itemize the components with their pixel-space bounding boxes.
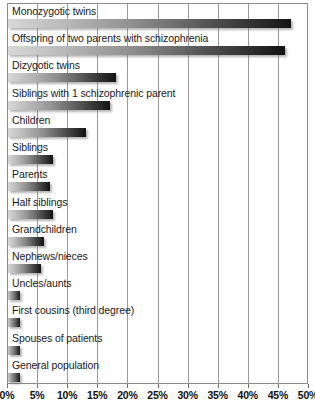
bar-container — [8, 46, 285, 56]
bar — [8, 373, 20, 382]
x-axis-tick-label: 5% — [30, 389, 45, 402]
bar-label: Monozygotic twins — [12, 4, 96, 18]
bar — [8, 346, 20, 355]
bar-container — [8, 346, 20, 356]
bar-container — [8, 73, 116, 83]
bar-container — [8, 182, 50, 192]
bar-label: General population — [12, 358, 99, 372]
bar-container — [8, 291, 20, 301]
chart-row: Dizygotic twins — [8, 58, 307, 85]
x-axis-tick-label: 45% — [268, 389, 288, 402]
bar-label: Children — [12, 113, 50, 127]
bar — [8, 182, 50, 191]
x-axis-tick — [7, 384, 8, 388]
bar-chart: Monozygotic twinsOffspring of two parent… — [0, 0, 315, 420]
bar — [8, 46, 285, 55]
bar-container — [8, 318, 20, 328]
x-axis-tick — [158, 384, 159, 388]
x-axis-tick — [97, 384, 98, 388]
bar-label: Offspring of two parents with schizophre… — [12, 31, 208, 45]
x-axis-tick-label: 30% — [177, 389, 197, 402]
bar-label: Siblings — [12, 140, 48, 154]
x-axis-tick — [248, 384, 249, 388]
bar — [8, 101, 110, 110]
x-axis-tick-label: 50% — [298, 389, 315, 402]
chart-row: Uncles/aunts — [8, 276, 307, 303]
bar-label: Half siblings — [12, 195, 67, 209]
chart-row: Half siblings — [8, 195, 307, 222]
x-axis-tick-label: 25% — [147, 389, 167, 402]
x-axis-tick-label: 40% — [238, 389, 258, 402]
bar-container — [8, 373, 20, 383]
bar — [8, 155, 53, 164]
x-axis-tick-label: 0% — [0, 389, 14, 402]
x-axis-tick — [308, 384, 309, 388]
x-axis-tick — [218, 384, 219, 388]
chart-row: Children — [8, 113, 307, 140]
x-axis-tick — [188, 384, 189, 388]
bar-label: Uncles/aunts — [12, 276, 72, 290]
bar-label: Grandchildren — [12, 222, 77, 236]
chart-row: Nephews/nieces — [8, 249, 307, 276]
bar — [8, 19, 291, 28]
bar-label: Spouses of patients — [12, 331, 102, 345]
x-axis: 0%5%10%15%20%25%30%35%40%45%50% — [0, 384, 315, 420]
chart-row: Siblings with 1 schizophrenic parent — [8, 86, 307, 113]
x-axis-tick — [278, 384, 279, 388]
x-axis-tick-label: 10% — [57, 389, 77, 402]
bar-label: Siblings with 1 schizophrenic parent — [12, 86, 175, 100]
x-axis-tick — [127, 384, 128, 388]
chart-row: Monozygotic twins — [8, 4, 307, 31]
bar — [8, 318, 20, 327]
chart-row: First cousins (third degree) — [8, 303, 307, 330]
bar-label: First cousins (third degree) — [12, 303, 134, 317]
chart-row: Parents — [8, 167, 307, 194]
bar-container — [8, 264, 41, 274]
x-axis-tick — [37, 384, 38, 388]
bar-container — [8, 210, 53, 220]
x-axis-tick-label: 20% — [117, 389, 137, 402]
bar-container — [8, 237, 44, 247]
x-axis-tick-label: 35% — [207, 389, 227, 402]
bar-label: Parents — [12, 167, 48, 181]
bar-label: Nephews/nieces — [12, 249, 88, 263]
chart-row: Offspring of two parents with schizophre… — [8, 31, 307, 58]
chart-rows: Monozygotic twinsOffspring of two parent… — [8, 4, 307, 383]
bar — [8, 291, 20, 300]
x-axis-tick — [67, 384, 68, 388]
bar-container — [8, 19, 291, 29]
x-axis-tick-label: 15% — [87, 389, 107, 402]
chart-row: Grandchildren — [8, 222, 307, 249]
bar-container — [8, 101, 110, 111]
bar — [8, 210, 53, 219]
bar — [8, 237, 44, 246]
bar-label: Dizygotic twins — [12, 58, 80, 72]
chart-row: Spouses of patients — [8, 331, 307, 358]
bar-container — [8, 155, 53, 165]
bar-container — [8, 128, 86, 138]
bar — [8, 128, 86, 137]
bar — [8, 73, 116, 82]
bar — [8, 264, 41, 273]
chart-row: General population — [8, 358, 307, 385]
chart-row: Siblings — [8, 140, 307, 167]
